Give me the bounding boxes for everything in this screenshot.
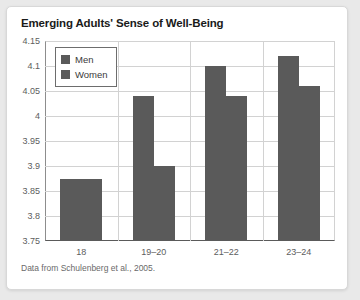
- plot-area: 3.753.83.853.93.9544.054.14.15 1819–2021…: [45, 41, 335, 241]
- bar-men-3: [278, 56, 299, 241]
- bar-men-1: [133, 96, 154, 241]
- vertical-gridline: [263, 41, 264, 241]
- x-axis-tick-label: 18: [76, 247, 86, 257]
- y-axis-tick-label: 4.05: [22, 86, 40, 96]
- y-axis-tick-label: 4.1: [27, 61, 40, 71]
- bar-women-3: [299, 86, 320, 241]
- x-axis-tick-label: 21–22: [214, 247, 239, 257]
- x-axis-tick-label: 23–24: [286, 247, 311, 257]
- y-axis-tick-label: 3.75: [22, 236, 40, 246]
- legend-item-men: Men: [61, 52, 108, 67]
- legend-swatch-women: [61, 70, 70, 79]
- legend-swatch-men: [61, 55, 70, 64]
- legend-label-men: Men: [75, 54, 93, 65]
- y-axis-tick-label: 4.15: [22, 36, 40, 46]
- y-axis-tick-label: 3.9: [27, 161, 40, 171]
- bar-women-0: [81, 179, 102, 242]
- y-axis-tick-label: 3.85: [22, 186, 40, 196]
- x-axis-tick-label: 19–20: [141, 247, 166, 257]
- legend-item-women: Women: [61, 67, 108, 82]
- legend-label-women: Women: [75, 69, 108, 80]
- y-axis-tick-label: 3.8: [27, 211, 40, 221]
- bar-women-1: [154, 166, 175, 241]
- y-axis-tick-label: 4: [35, 111, 40, 121]
- bar-men-2: [205, 66, 226, 241]
- bar-men-0: [60, 179, 81, 242]
- y-axis-tick-label: 3.95: [22, 136, 40, 146]
- bar-women-2: [226, 96, 247, 241]
- vertical-gridline: [190, 41, 191, 241]
- chart-card: Emerging Adults' Sense of Well-Being 3.7…: [6, 6, 348, 290]
- chart-legend: Men Women: [55, 47, 117, 87]
- source-note: Data from Schulenberg et al., 2005.: [21, 263, 155, 273]
- chart-title: Emerging Adults' Sense of Well-Being: [21, 17, 223, 29]
- vertical-gridline: [118, 41, 119, 241]
